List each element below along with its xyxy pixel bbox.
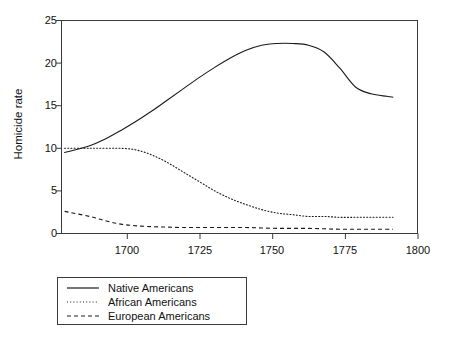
legend: Native Americans African Americans Europ…	[57, 277, 247, 325]
legend-item-african-americans: African Americans	[64, 295, 246, 309]
series-line-african-americans	[65, 148, 393, 217]
series-lines	[65, 43, 393, 229]
legend-label-european-americans: European Americans	[108, 310, 210, 322]
homicide-rate-chart: Homicide rate 25 20 15 10 5 0 1700 1725 …	[0, 0, 451, 339]
legend-label-african-americans: African Americans	[108, 296, 197, 308]
legend-swatch-dotted-icon	[64, 296, 102, 308]
axis-frame	[62, 21, 418, 234]
legend-swatch-solid-icon	[64, 282, 102, 294]
legend-swatch-dashed-icon	[64, 310, 102, 322]
x-axis-ticks	[127, 234, 418, 240]
series-line-native-americans	[65, 43, 393, 152]
legend-item-native-americans: Native Americans	[64, 281, 246, 295]
y-axis-ticks	[56, 21, 62, 234]
legend-item-european-americans: European Americans	[64, 309, 246, 323]
legend-label-native-americans: Native Americans	[108, 282, 194, 294]
series-line-european-americans	[65, 211, 393, 229]
